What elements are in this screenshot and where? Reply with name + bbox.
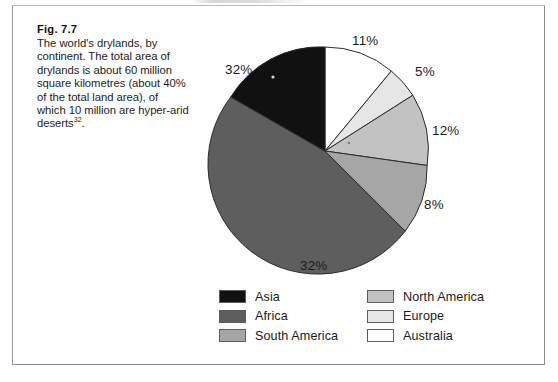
legend-swatch-south-america bbox=[219, 329, 246, 342]
legend-column-left: Asia Africa South America bbox=[219, 287, 338, 346]
pie-label-africa: 32% bbox=[300, 258, 327, 273]
legend-label-north-america: North America bbox=[403, 290, 484, 304]
pie-label-south-america: 8% bbox=[424, 197, 444, 212]
caption-footnote-marker: 32 bbox=[74, 116, 82, 125]
legend-swatch-australia bbox=[367, 329, 394, 342]
legend-column-right: North America Europe Australia bbox=[367, 287, 484, 346]
caption-text: The world's drylands, by continent. The … bbox=[37, 37, 189, 131]
legend-swatch-asia bbox=[219, 290, 246, 303]
legend-label-africa: Africa bbox=[255, 309, 288, 323]
legend-swatch-africa bbox=[219, 310, 246, 323]
legend-item-australia[interactable]: Australia bbox=[367, 326, 484, 346]
legend-item-africa[interactable]: Africa bbox=[219, 307, 338, 327]
legend-label-south-america: South America bbox=[255, 329, 338, 343]
pie-chart: 32% 11% 5% 12% 8% 32% bbox=[203, 24, 503, 284]
pie-label-europe: 5% bbox=[415, 64, 435, 79]
figure-number: Fig. 7.7 bbox=[37, 22, 189, 36]
legend-label-australia: Australia bbox=[403, 329, 453, 343]
legend-item-south-america[interactable]: South America bbox=[219, 326, 338, 346]
legend-swatch-europe bbox=[367, 310, 394, 323]
pie-label-australia: 11% bbox=[352, 33, 378, 48]
legend-label-europe: Europe bbox=[403, 309, 444, 323]
legend-swatch-north-america bbox=[367, 290, 394, 303]
legend-item-europe[interactable]: Europe bbox=[367, 307, 484, 327]
scan-speck bbox=[271, 75, 274, 78]
scan-speck bbox=[348, 142, 350, 144]
pie-label-asia: 32% bbox=[225, 62, 252, 77]
legend-item-asia[interactable]: Asia bbox=[219, 287, 338, 307]
scanned-page: Fig. 7.7 The world's drylands, by contin… bbox=[0, 0, 558, 382]
scan-artifact bbox=[190, 0, 310, 3]
figure-frame: Fig. 7.7 The world's drylands, by contin… bbox=[12, 5, 545, 365]
legend-label-asia: Asia bbox=[255, 290, 280, 304]
caption-body-text: The world's drylands, by continent. The … bbox=[37, 37, 189, 129]
figure-caption: Fig. 7.7 The world's drylands, by contin… bbox=[37, 22, 189, 131]
pie-label-north-america: 12% bbox=[432, 123, 459, 138]
legend-item-north-america[interactable]: North America bbox=[367, 287, 484, 307]
